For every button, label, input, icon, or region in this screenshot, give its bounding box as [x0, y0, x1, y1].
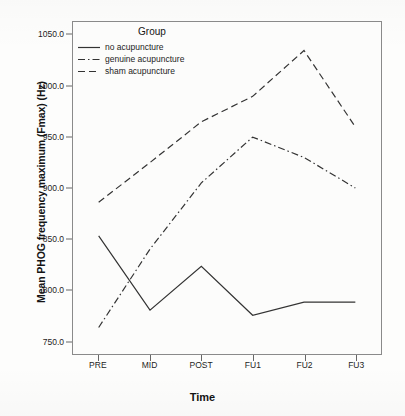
legend-entries: no acupuncturegenuine acupuncturesham ac…	[78, 42, 228, 76]
legend-entry: sham acupuncture	[78, 66, 228, 76]
legend-entry-label: sham acupuncture	[105, 66, 175, 76]
x-axis-tick-label: PRE	[73, 360, 123, 370]
x-axis-tick-label: FU2	[280, 360, 330, 370]
y-axis-tick-label: 1050.0	[18, 29, 64, 39]
legend-line-swatch	[78, 67, 100, 76]
figure-canvas: Mean PHOG frequency maximum (Fmax) (Hz) …	[0, 0, 405, 416]
x-axis-tick-mark	[201, 355, 202, 361]
x-axis-tick-label: FU1	[228, 360, 278, 370]
legend-line-swatch	[78, 43, 100, 52]
y-axis-tick-mark	[66, 34, 72, 35]
y-axis-tick-label: 900.0	[18, 183, 64, 193]
y-axis-tick-mark	[66, 290, 72, 291]
legend-title: Group	[92, 26, 212, 37]
y-axis-tick-label: 800.0	[18, 285, 64, 295]
series-line-genuine-acupuncture	[99, 137, 356, 327]
x-axis-tick-mark	[150, 355, 151, 361]
x-axis-tick-mark	[356, 355, 357, 361]
y-axis-tick-label: 950.0	[18, 132, 64, 142]
y-axis-tick-mark	[66, 239, 72, 240]
legend: Group no acupuncturegenuine acupunctures…	[78, 26, 228, 78]
x-axis-tick-label: FU3	[331, 360, 381, 370]
legend-entry: no acupuncture	[78, 42, 228, 52]
x-axis-tick-mark	[305, 355, 306, 361]
x-axis-title: Time	[0, 391, 405, 403]
legend-entry: genuine acupuncture	[78, 54, 228, 64]
y-axis-tick-label: 850.0	[18, 234, 64, 244]
legend-line-swatch	[78, 55, 100, 64]
x-axis-tick-mark	[253, 355, 254, 361]
x-axis-tick-mark	[98, 355, 99, 361]
x-axis-tick-label: POST	[176, 360, 226, 370]
y-axis-tick-mark	[66, 85, 72, 86]
x-axis-tick-label: MID	[125, 360, 175, 370]
legend-entry-label: genuine acupuncture	[105, 54, 184, 64]
y-axis-tick-mark	[66, 341, 72, 342]
y-axis-tick-mark	[66, 188, 72, 189]
y-axis-tick-label: 750.0	[18, 337, 64, 347]
y-axis-tick-label: 1000.0	[18, 81, 64, 91]
legend-entry-label: no acupuncture	[105, 42, 164, 52]
series-line-no-acupuncture	[99, 236, 356, 315]
y-axis-tick-mark	[66, 136, 72, 137]
y-axis-tick-labels: 750.0800.0850.0900.0950.01000.01050.0	[18, 0, 64, 416]
